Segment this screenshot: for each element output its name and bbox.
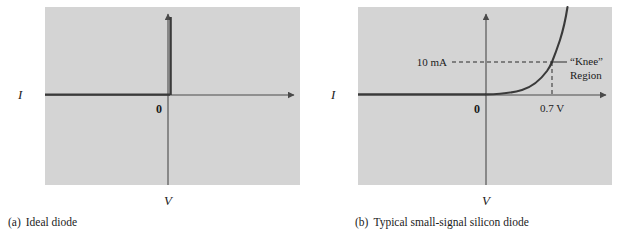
voltage-annotation-label: 0.7 V [540, 103, 564, 114]
caption-silicon-diode: (b)Typical small-signal silicon diode [355, 217, 529, 229]
caption-text-b: Typical small-signal silicon diode [373, 216, 528, 228]
diode-iv-characteristics-figure: I V 0 (a)Ideal diode [0, 0, 626, 238]
current-annotation-label: 10 mA [417, 57, 447, 68]
silicon-diode-forward-curve [486, 7, 568, 94]
knee-region-line-1: “Knee” [570, 55, 603, 69]
knee-region-annotation: “Knee” Region [570, 55, 603, 83]
plot-graphics-silicon-diode [0, 0, 626, 238]
x-axis-label-silicon: V [482, 194, 490, 207]
caption-tag-b: (b) [355, 216, 368, 228]
knee-region-line-2: Region [570, 69, 603, 83]
y-axis-label-silicon: I [331, 88, 335, 101]
origin-label-silicon: 0 [474, 103, 480, 115]
